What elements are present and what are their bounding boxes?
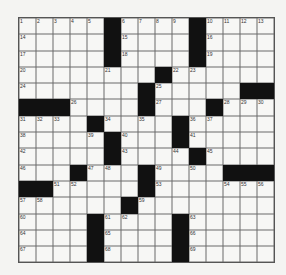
grid-cell[interactable] [155,132,172,148]
grid-cell[interactable]: 4 [70,18,87,34]
grid-cell[interactable] [87,197,104,213]
grid-cell[interactable]: 37 [206,116,223,132]
grid-cell[interactable] [36,165,53,181]
grid-cell[interactable]: 56 [257,181,274,197]
grid-cell[interactable] [257,214,274,230]
grid-cell[interactable] [172,181,189,197]
grid-cell[interactable]: 33 [53,116,70,132]
grid-cell[interactable] [70,116,87,132]
grid-cell[interactable]: 57 [19,197,36,213]
grid-cell[interactable] [53,83,70,99]
grid-cell[interactable] [257,51,274,67]
grid-cell[interactable]: 22 [172,67,189,83]
grid-cell[interactable] [121,83,138,99]
grid-cell[interactable] [87,148,104,164]
grid-cell[interactable]: 43 [121,148,138,164]
grid-cell[interactable]: 52 [70,181,87,197]
grid-cell[interactable]: 12 [240,18,257,34]
grid-cell[interactable] [121,99,138,115]
grid-cell[interactable]: 7 [138,18,155,34]
grid-cell[interactable]: 34 [104,116,121,132]
grid-cell[interactable] [189,83,206,99]
grid-cell[interactable] [138,132,155,148]
grid-cell[interactable] [257,230,274,246]
grid-cell[interactable] [206,214,223,230]
grid-cell[interactable] [223,51,240,67]
grid-cell[interactable]: 19 [206,51,223,67]
grid-cell[interactable] [223,67,240,83]
grid-cell[interactable] [189,99,206,115]
grid-cell[interactable]: 32 [36,116,53,132]
grid-cell[interactable]: 54 [223,181,240,197]
grid-cell[interactable]: 14 [19,34,36,50]
grid-cell[interactable] [240,116,257,132]
grid-cell[interactable] [121,165,138,181]
grid-cell[interactable] [121,230,138,246]
grid-cell[interactable] [87,99,104,115]
grid-cell[interactable] [257,67,274,83]
grid-cell[interactable] [104,83,121,99]
grid-cell[interactable] [155,51,172,67]
grid-cell[interactable]: 38 [19,132,36,148]
grid-cell[interactable] [36,214,53,230]
grid-cell[interactable] [138,34,155,50]
grid-cell[interactable]: 29 [240,99,257,115]
grid-cell[interactable] [223,230,240,246]
grid-cell[interactable] [53,51,70,67]
grid-cell[interactable]: 53 [155,181,172,197]
grid-cell[interactable] [172,83,189,99]
grid-cell[interactable] [206,230,223,246]
grid-cell[interactable] [223,83,240,99]
grid-cell[interactable] [206,197,223,213]
grid-cell[interactable] [240,132,257,148]
grid-cell[interactable]: 47 [87,165,104,181]
grid-cell[interactable]: 30 [257,99,274,115]
grid-cell[interactable]: 15 [121,34,138,50]
grid-cell[interactable] [36,51,53,67]
grid-cell[interactable] [257,34,274,50]
grid-cell[interactable] [121,67,138,83]
grid-cell[interactable] [53,165,70,181]
grid-cell[interactable]: 51 [53,181,70,197]
grid-cell[interactable]: 23 [189,67,206,83]
grid-cell[interactable] [240,197,257,213]
grid-cell[interactable] [53,67,70,83]
grid-cell[interactable] [70,83,87,99]
grid-cell[interactable]: 36 [189,116,206,132]
grid-cell[interactable]: 49 [155,165,172,181]
grid-cell[interactable]: 48 [104,165,121,181]
grid-cell[interactable] [223,197,240,213]
grid-cell[interactable] [87,34,104,50]
grid-cell[interactable]: 6 [121,18,138,34]
grid-cell[interactable] [223,214,240,230]
grid-cell[interactable]: 42 [19,148,36,164]
grid-cell[interactable] [104,99,121,115]
grid-cell[interactable] [138,214,155,230]
grid-cell[interactable] [206,83,223,99]
grid-cell[interactable] [206,132,223,148]
grid-cell[interactable] [189,181,206,197]
grid-cell[interactable] [138,148,155,164]
grid-cell[interactable] [104,197,121,213]
grid-cell[interactable] [53,148,70,164]
grid-cell[interactable] [87,83,104,99]
grid-cell[interactable]: 60 [19,214,36,230]
grid-cell[interactable] [206,181,223,197]
grid-cell[interactable] [70,34,87,50]
grid-cell[interactable] [257,132,274,148]
grid-cell[interactable] [70,148,87,164]
grid-cell[interactable]: 20 [19,67,36,83]
grid-cell[interactable] [172,99,189,115]
grid-cell[interactable] [155,148,172,164]
grid-cell[interactable] [155,116,172,132]
grid-cell[interactable] [70,51,87,67]
grid-cell[interactable] [70,132,87,148]
grid-cell[interactable]: 25 [155,83,172,99]
grid-cell[interactable] [36,132,53,148]
grid-cell[interactable] [240,34,257,50]
grid-cell[interactable] [36,148,53,164]
grid-cell[interactable]: 18 [121,51,138,67]
grid-cell[interactable]: 1 [19,18,36,34]
grid-cell[interactable] [53,34,70,50]
grid-cell[interactable]: 8 [155,18,172,34]
